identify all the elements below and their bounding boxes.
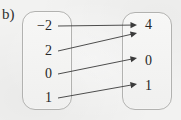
- codomain-element: 4: [145, 18, 152, 32]
- domain-element: 1: [45, 91, 52, 105]
- codomain-element: 1: [145, 79, 152, 93]
- codomain-element: 0: [145, 54, 152, 68]
- domain-element: −2: [37, 19, 52, 33]
- domain-element: 0: [45, 67, 52, 81]
- part-label: b): [2, 5, 15, 23]
- domain-element: 2: [45, 44, 52, 58]
- mapping-diagram-figure: b) −2201 401: [0, 0, 181, 120]
